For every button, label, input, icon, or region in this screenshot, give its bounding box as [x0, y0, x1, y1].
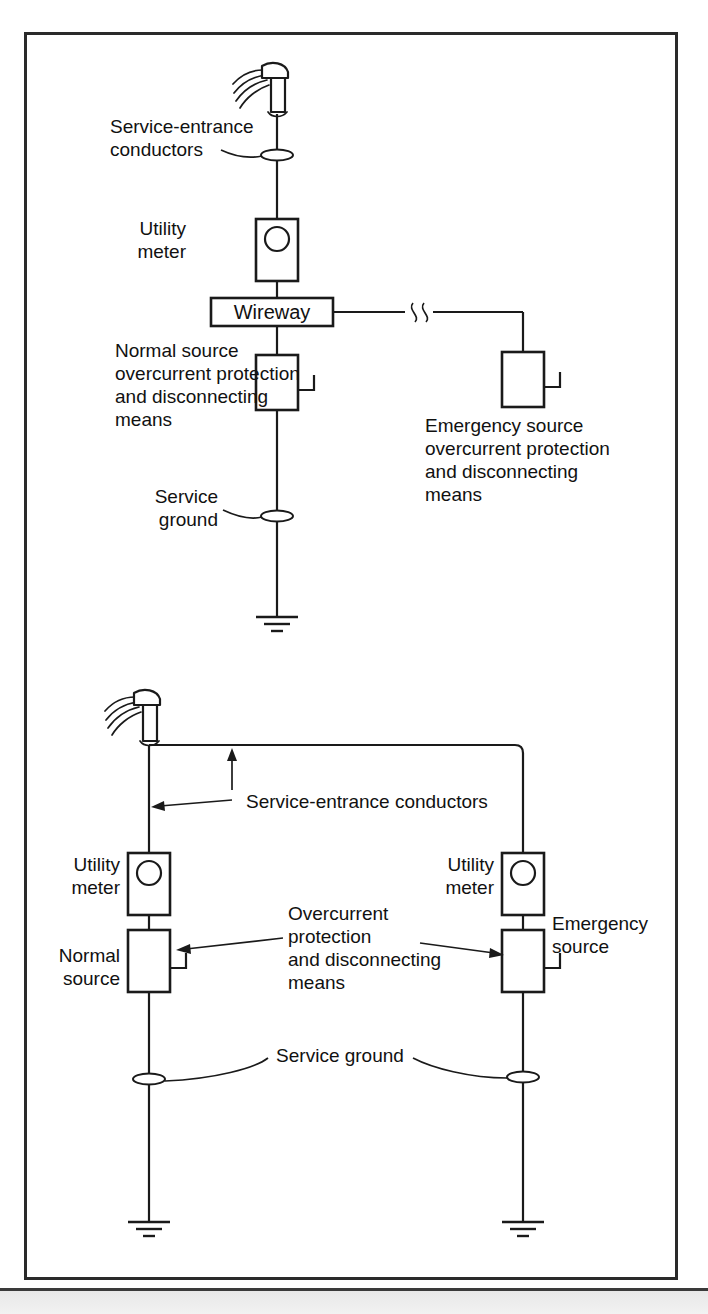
label-emergency-source-bottom-line2: source [552, 936, 609, 957]
label-normal-source-top-line3: and disconnecting [115, 386, 268, 407]
earth-ground-icon-top [256, 617, 298, 631]
service-head-icon-bottom [105, 690, 160, 746]
earth-ground-icon-bottom-right [502, 1222, 544, 1236]
label-utility-meter-top-line2: meter [137, 241, 186, 262]
label-overcurrent-bottom-line1: Overcurrent [288, 903, 389, 924]
label-service-entrance-conductors-line2: conductors [110, 139, 203, 160]
label-service-ground-bottom: Service ground [276, 1045, 404, 1066]
label-normal-source-top-line1: Normal source [115, 340, 239, 361]
label-service-ground-top-line2: ground [159, 509, 218, 530]
leader-service-ground-top [223, 510, 262, 518]
leader-service-ground-bottom-left [165, 1058, 268, 1081]
utility-meter-icon-bottom-left [128, 853, 170, 915]
label-normal-source-top-line4: means [115, 409, 172, 430]
page-canvas: Service-entrance conductors Utility mete… [0, 0, 708, 1314]
earth-ground-icon-bottom-left [128, 1222, 170, 1236]
circuit-breaker-icon-emergency-top [502, 352, 560, 407]
label-normal-source-top-line2: overcurrent protection [115, 363, 300, 384]
service-ground-bushing-icon-lower [261, 511, 293, 522]
bottom-diagram: Service-entrance conductors Utility mete… [59, 690, 649, 1236]
label-service-entrance-conductors-bottom: Service-entrance conductors [246, 791, 488, 812]
label-overcurrent-bottom-line4: means [288, 972, 345, 993]
circuit-breaker-icon-normal-bottom [128, 930, 186, 992]
label-emergency-source-top-line2: overcurrent protection [425, 438, 610, 459]
label-overcurrent-bottom-line2: protection [288, 926, 371, 947]
service-head-icon [233, 63, 288, 117]
label-utility-meter-bottom-left-line1: Utility [74, 854, 121, 875]
label-utility-meter-bottom-right-line2: meter [445, 877, 494, 898]
leader-service-entrance [221, 150, 262, 157]
utility-meter-icon-bottom-right [502, 853, 544, 915]
service-ground-bushing-icon-bottom-left [133, 1074, 165, 1085]
page-bottom-strip [0, 1288, 708, 1314]
top-diagram: Service-entrance conductors Utility mete… [110, 63, 610, 631]
label-emergency-source-top-line4: means [425, 484, 482, 505]
label-utility-meter-top-line1: Utility [140, 218, 187, 239]
wireway-box: Wireway [211, 298, 333, 326]
label-utility-meter-bottom-left-line2: meter [71, 877, 120, 898]
utility-meter-icon-top [256, 219, 298, 281]
leader-service-ground-bottom-right [413, 1058, 507, 1078]
label-emergency-source-top-line1: Emergency source [425, 415, 583, 436]
label-utility-meter-bottom-right-line1: Utility [448, 854, 495, 875]
label-emergency-source-top-line3: and disconnecting [425, 461, 578, 482]
label-overcurrent-bottom-line3: and disconnecting [288, 949, 441, 970]
service-ground-bushing-icon-bottom-right [507, 1072, 539, 1083]
label-normal-source-bottom-line2: source [63, 968, 120, 989]
label-wireway: Wireway [234, 301, 311, 323]
service-ground-bushing-icon [261, 150, 293, 161]
label-service-entrance-conductors-line1: Service-entrance [110, 116, 254, 137]
one-line-diagram: Service-entrance conductors Utility mete… [0, 0, 708, 1314]
leader-overcurrent-left [176, 938, 283, 954]
wire-break-icon [411, 303, 427, 322]
label-service-ground-top-line1: Service [155, 486, 218, 507]
leader-service-entrance-bottom [151, 748, 237, 811]
label-emergency-source-bottom-line1: Emergency [552, 913, 649, 934]
label-normal-source-bottom-line1: Normal [59, 945, 120, 966]
